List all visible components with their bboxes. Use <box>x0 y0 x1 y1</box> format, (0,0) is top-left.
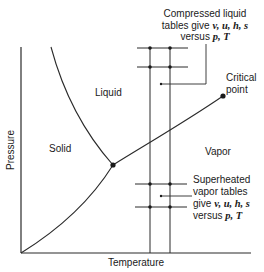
leader-dot <box>160 83 162 85</box>
superheated-annotation-line4: versus p, T <box>193 210 243 221</box>
grid-node <box>148 65 152 69</box>
grid-node <box>148 205 152 209</box>
triple-point-marker <box>110 162 115 167</box>
sublimation-curve <box>21 165 113 253</box>
grid-node <box>148 182 152 186</box>
grid-node <box>168 182 172 186</box>
grid-node <box>168 65 172 69</box>
region-solid-label: Solid <box>49 143 71 154</box>
region-vapor-label: Vapor <box>205 146 232 157</box>
critical-point-marker <box>220 93 225 98</box>
superheated-annotation-line2: vapor tables <box>193 186 247 197</box>
critical-point-label-1: Critical <box>226 72 257 83</box>
compressed-annotation-line2: tables give v, u, h, s <box>162 20 248 31</box>
superheated-annotation-line3: give v, u, h, s <box>193 198 250 209</box>
grid-node <box>168 205 172 209</box>
compressed-annotation-line3: versus p, T <box>180 31 230 42</box>
phase-diagram: Liquid Solid Vapor Critical point Compre… <box>0 0 264 272</box>
region-liquid-label: Liquid <box>95 87 122 98</box>
y-axis-label: Pressure <box>5 130 16 170</box>
grid-node <box>148 46 152 50</box>
grid-node <box>168 46 172 50</box>
compressed-leader-line <box>161 44 206 84</box>
critical-point-label-2: point <box>226 84 248 95</box>
compressed-annotation-line1: Compressed liquid <box>164 8 247 19</box>
superheated-annotation-line1: Superheated <box>193 174 250 185</box>
x-axis-label: Temperature <box>108 257 165 268</box>
leader-dot <box>160 195 162 197</box>
